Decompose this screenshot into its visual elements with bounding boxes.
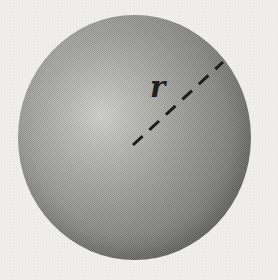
radius-label: r bbox=[150, 72, 174, 104]
sphere bbox=[18, 15, 251, 260]
figure-canvas: r bbox=[0, 0, 278, 280]
